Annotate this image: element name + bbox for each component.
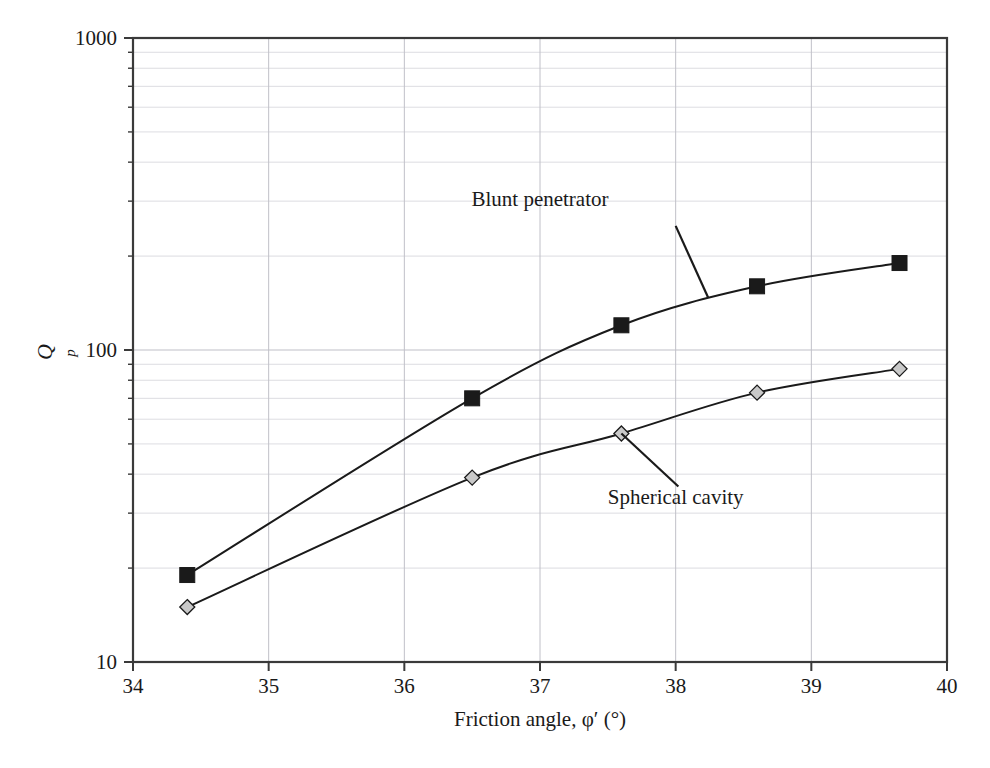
data-point-square [614,318,629,333]
y-tick-label: 1000 [75,26,117,50]
x-tick-label: 39 [801,674,822,698]
x-tick-label: 35 [258,674,279,698]
annotation-label: Blunt penetrator [471,187,608,211]
x-tick-label: 37 [530,674,551,698]
x-axis-title: Friction angle, φ′ (°) [454,707,626,731]
x-tick-label: 40 [937,674,958,698]
log-line-chart: 101001000 34353637383940 Blunt penetrato… [0,0,990,768]
data-point-square [180,568,195,583]
y-axis-title-main: Q [32,344,57,360]
chart-background [0,0,990,768]
data-point-square [892,256,907,271]
figure-container: 101001000 34353637383940 Blunt penetrato… [0,0,990,768]
data-point-square [750,279,765,294]
annotation-label: Spherical cavity [608,485,744,509]
y-axis-title-sub: p [62,349,78,358]
y-tick-label: 100 [86,338,118,362]
x-tick-label: 34 [123,674,145,698]
x-tick-label: 38 [665,674,686,698]
x-tick-label: 36 [394,674,415,698]
y-tick-label: 10 [96,650,117,674]
data-point-square [465,391,480,406]
